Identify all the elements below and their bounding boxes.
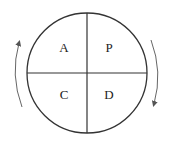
- left-arrow-up-icon: [15, 43, 22, 107]
- right-arrow-down-icon: [151, 40, 158, 104]
- quadrant-label-a: A: [59, 40, 69, 55]
- quadrant-label-p: P: [105, 40, 112, 55]
- quadrant-label-c: C: [60, 87, 69, 102]
- quadrant-label-d: D: [104, 87, 113, 102]
- pdca-diagram: A P C D: [0, 0, 171, 146]
